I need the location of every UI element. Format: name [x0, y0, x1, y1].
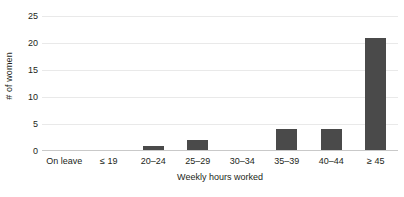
plot-area	[42, 16, 398, 151]
bar[interactable]	[276, 129, 297, 151]
bar[interactable]	[365, 38, 386, 151]
y-axis-tick-label: 0	[33, 146, 38, 156]
x-axis-tick-label: ≤ 19	[87, 154, 132, 168]
y-axis-tick-label: 15	[28, 65, 38, 75]
y-axis-tick-label: 20	[28, 38, 38, 48]
y-axis-tick-label: 10	[28, 92, 38, 102]
y-axis-tick-label: 5	[33, 119, 38, 129]
bar[interactable]	[321, 129, 342, 151]
bar-slot	[176, 16, 221, 151]
y-axis-tick-label: 25	[28, 11, 38, 21]
x-axis-tick-label: 40–44	[309, 154, 354, 168]
bar-slot	[265, 16, 310, 151]
y-axis-title-label: # of women	[4, 52, 14, 100]
bars-group	[42, 16, 398, 151]
bar-slot	[42, 16, 87, 151]
x-axis-title: Weekly hours worked	[42, 172, 398, 182]
bar-slot	[309, 16, 354, 151]
x-axis-tick-label: ≥ 45	[354, 154, 399, 168]
x-axis-tick-label: On leave	[42, 154, 87, 168]
x-axis-baseline	[42, 150, 398, 151]
x-axis-tick-label: 35–39	[265, 154, 310, 168]
bar-chart-figure: # of women 0510152025 On leave≤ 1920–242…	[0, 0, 404, 197]
bar-slot	[131, 16, 176, 151]
bar-slot	[354, 16, 399, 151]
bar-slot	[220, 16, 265, 151]
y-axis-tick-labels: 0510152025	[16, 0, 40, 197]
x-axis-tick-label: 20–24	[131, 154, 176, 168]
x-axis-tick-label: 30–34	[220, 154, 265, 168]
x-axis-tick-labels: On leave≤ 1920–2425–2930–3435–3940–44≥ 4…	[42, 154, 398, 168]
x-axis-tick-label: 25–29	[176, 154, 221, 168]
bar-slot	[87, 16, 132, 151]
